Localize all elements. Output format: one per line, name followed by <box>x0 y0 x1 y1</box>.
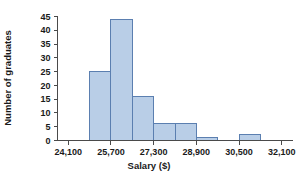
bars-group <box>90 19 261 140</box>
y-tick-label: 10 <box>40 108 50 118</box>
histogram-bar <box>111 19 132 140</box>
x-tick-label: 27,300 <box>140 147 168 157</box>
chart-canvas: 051015202530354045 24,10025,70027,30028,… <box>0 0 298 172</box>
x-axis-title: Salary ($) <box>128 160 171 171</box>
y-tick-label: 20 <box>40 81 50 91</box>
y-tick-label: 25 <box>40 67 50 77</box>
y-tick-label: 40 <box>40 25 50 35</box>
x-axis-ticks: 24,10025,70027,30028,90030,50032,100 <box>54 141 295 157</box>
y-axis-ticks: 051015202530354045 <box>40 12 57 146</box>
y-tick-label: 30 <box>40 53 50 63</box>
y-tick-label: 5 <box>45 122 50 132</box>
histogram-chart: 051015202530354045 24,10025,70027,30028,… <box>0 0 298 172</box>
x-tick-label: 28,900 <box>183 147 211 157</box>
y-tick-label: 35 <box>40 39 50 49</box>
y-tick-label: 45 <box>40 12 50 22</box>
y-tick-label: 15 <box>40 94 50 104</box>
histogram-bar <box>154 124 175 141</box>
x-tick-label: 24,100 <box>54 147 82 157</box>
x-tick-label: 30,500 <box>225 147 253 157</box>
histogram-bar <box>239 135 260 141</box>
x-tick-label: 32,100 <box>268 147 296 157</box>
y-tick-label: 0 <box>45 136 50 146</box>
histogram-bar <box>90 72 111 141</box>
x-tick-label: 25,700 <box>97 147 125 157</box>
histogram-bar <box>175 124 196 141</box>
histogram-bar <box>132 96 153 140</box>
y-axis-title: Number of graduates <box>2 30 13 126</box>
